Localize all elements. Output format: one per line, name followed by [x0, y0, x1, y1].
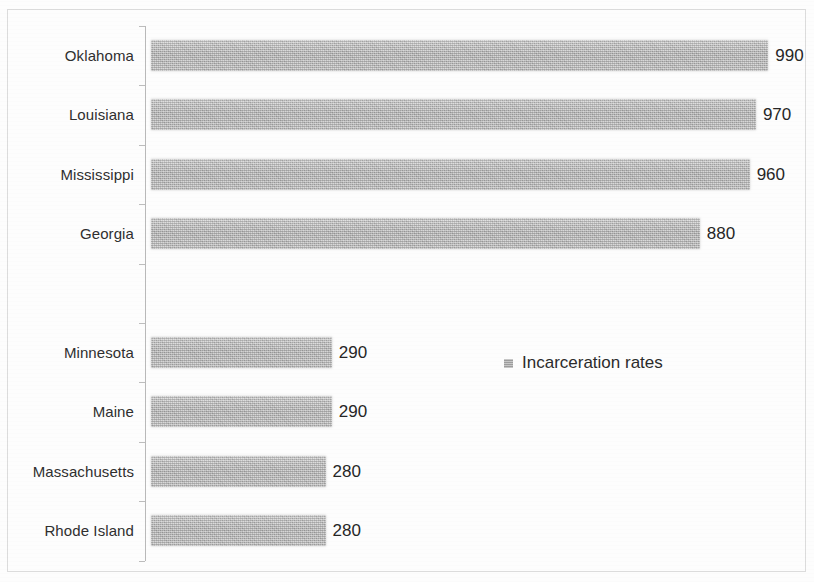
bar-row: Massachusetts280 [0, 442, 814, 501]
category-label: Massachusetts [0, 442, 134, 501]
bar-fill [151, 99, 756, 130]
bar-fill [151, 515, 326, 546]
bar-chart-plot-area: Oklahoma990Louisiana970Mississippi960Geo… [0, 0, 814, 582]
category-label: Rhode Island [0, 501, 134, 560]
category-label: Georgia [0, 204, 134, 263]
bar-fill [151, 337, 332, 368]
bar [151, 218, 700, 249]
bar [151, 40, 768, 71]
category-label: Mississippi [0, 145, 134, 204]
bar-value-label: 880 [707, 218, 735, 249]
bar [151, 337, 332, 368]
axis-tick [139, 561, 145, 562]
bar-row [0, 264, 814, 323]
category-label: Maine [0, 382, 134, 441]
bar-value-label: 280 [333, 515, 361, 546]
bar-fill [151, 159, 750, 190]
bar-fill [151, 218, 700, 249]
bar-row: Louisiana970 [0, 85, 814, 144]
bar [151, 159, 750, 190]
chart-page: Oklahoma990Louisiana970Mississippi960Geo… [0, 0, 814, 582]
bar-value-label: 970 [763, 99, 791, 130]
legend-label: Incarceration rates [522, 353, 663, 373]
bar-row: Mississippi960 [0, 145, 814, 204]
category-label: Louisiana [0, 85, 134, 144]
bar-row: Maine290 [0, 382, 814, 441]
bar-value-label: 960 [757, 159, 785, 190]
bar [151, 456, 326, 487]
bar [151, 396, 332, 427]
category-label: Oklahoma [0, 26, 134, 85]
bar-row: Oklahoma990 [0, 26, 814, 85]
bar-row: Minnesota290 [0, 323, 814, 382]
bar-fill [151, 396, 332, 427]
bar-value-label: 990 [775, 40, 803, 71]
bar-value-label: 290 [339, 337, 367, 368]
bar-value-label: 290 [339, 396, 367, 427]
bar-value-label: 280 [333, 456, 361, 487]
bar [151, 515, 326, 546]
legend-swatch-icon [504, 359, 513, 368]
bar-fill [151, 40, 768, 71]
bar [151, 99, 756, 130]
bar-fill [151, 456, 326, 487]
bar-row: Rhode Island280 [0, 501, 814, 560]
category-label: Minnesota [0, 323, 134, 382]
chart-legend: Incarceration rates [504, 351, 663, 375]
bar-row: Georgia880 [0, 204, 814, 263]
